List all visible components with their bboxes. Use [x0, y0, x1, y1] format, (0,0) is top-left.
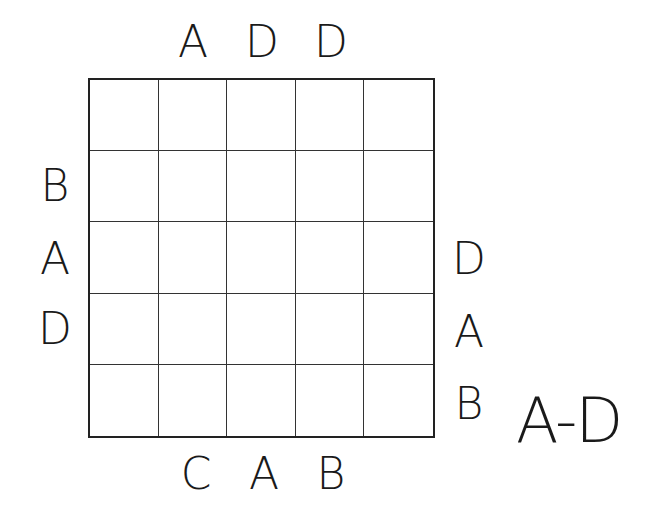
- grid-cell-r5c5[interactable]: [364, 365, 433, 436]
- top-clue-col2: A: [168, 20, 218, 64]
- grid-cell-r4c3[interactable]: [227, 294, 296, 365]
- bottom-clue-col4: B: [306, 452, 356, 496]
- grid-cell-r1c1[interactable]: [90, 80, 159, 151]
- grid-cell-r3c1[interactable]: [90, 222, 159, 293]
- left-clue-row3: A: [30, 237, 80, 281]
- grid-cell-r5c4[interactable]: [296, 365, 365, 436]
- grid-cell-r2c3[interactable]: [227, 151, 296, 222]
- grid-cell-r3c5[interactable]: [364, 222, 433, 293]
- grid-cell-r2c4[interactable]: [296, 151, 365, 222]
- grid-cell-r1c2[interactable]: [159, 80, 228, 151]
- grid-cell-r1c3[interactable]: [227, 80, 296, 151]
- top-clue-col3: D: [237, 20, 287, 64]
- grid-cell-r2c5[interactable]: [364, 151, 433, 222]
- right-clue-row3: D: [444, 237, 494, 281]
- grid-cell-r4c5[interactable]: [364, 294, 433, 365]
- top-clue-col4: D: [306, 20, 356, 64]
- grid-cell-r1c4[interactable]: [296, 80, 365, 151]
- left-clue-row4: D: [30, 307, 80, 351]
- right-clue-row4: A: [444, 310, 494, 354]
- grid-cell-r3c2[interactable]: [159, 222, 228, 293]
- grid-cell-r5c2[interactable]: [159, 365, 228, 436]
- grid-cell-r4c1[interactable]: [90, 294, 159, 365]
- grid-cell-r2c1[interactable]: [90, 151, 159, 222]
- letter-range-label: A-D: [516, 390, 621, 452]
- bottom-clue-col2: C: [171, 452, 221, 496]
- grid-cell-r4c2[interactable]: [159, 294, 228, 365]
- grid-cell-r2c2[interactable]: [159, 151, 228, 222]
- grid-cell-r3c4[interactable]: [296, 222, 365, 293]
- puzzle-grid: [88, 78, 435, 438]
- grid-cell-r3c3[interactable]: [227, 222, 296, 293]
- right-clue-row5: B: [444, 382, 494, 426]
- grid-cell-r5c1[interactable]: [90, 365, 159, 436]
- grid-cell-r1c5[interactable]: [364, 80, 433, 151]
- bottom-clue-col3: A: [239, 452, 289, 496]
- left-clue-row2: B: [30, 164, 80, 208]
- grid-cell-r5c3[interactable]: [227, 365, 296, 436]
- grid-cell-r4c4[interactable]: [296, 294, 365, 365]
